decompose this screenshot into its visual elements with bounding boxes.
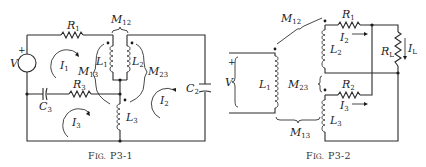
inductor-l2 <box>322 30 325 68</box>
label-m13: M13 <box>289 126 310 140</box>
capacitor-c2 <box>199 84 211 92</box>
circuit-diagrams: R1 M12 V + I1 L1 L2 M13 M23 R3 C3 C2 I2 … <box>0 0 426 167</box>
label-i1: I1 <box>59 59 69 73</box>
label-m12: M12 <box>280 12 301 26</box>
resistor-r3 <box>69 91 91 97</box>
resistor-r1 <box>338 22 360 28</box>
polarity-dot-l3 <box>324 89 327 92</box>
label-r3: R3 <box>72 78 86 92</box>
label-m23: M23 <box>147 65 168 79</box>
l3-wires <box>325 73 398 141</box>
label-l3: L3 <box>125 111 138 125</box>
label-i3: I3 <box>339 99 349 113</box>
polarity-dot-l2 <box>131 42 134 45</box>
inductor-l1 <box>110 46 113 72</box>
caption-fig-p3-2: FIG.P3-2 <box>306 150 351 161</box>
figure-p3-2: V + L1 M12 L2 R1 I2 RL IL M23 R2 <box>225 8 417 161</box>
label-m12: M12 <box>110 13 131 27</box>
voltage-source-v <box>18 54 36 72</box>
label-l1: L1 <box>258 78 271 92</box>
label-i2: I2 <box>339 31 349 45</box>
inductor-l3 <box>322 100 325 132</box>
label-l2: L2 <box>131 55 144 69</box>
l1-wire <box>113 35 127 80</box>
label-m13: M13 <box>77 65 98 79</box>
label-il: IL <box>407 42 417 56</box>
label-l3: L3 <box>329 114 342 128</box>
left-wire <box>27 35 205 141</box>
resistor-r2 <box>338 92 360 98</box>
polarity-dot-l3 <box>124 99 127 102</box>
junction <box>118 78 121 81</box>
primary-wires <box>229 53 275 113</box>
polarity-dot-l1 <box>274 48 277 51</box>
inductor-l1 <box>275 56 278 108</box>
brace-m23 <box>318 76 322 92</box>
polarity-dot-l2 <box>324 20 327 23</box>
label-l1: L1 <box>95 55 108 69</box>
label-r2: R2 <box>341 78 355 92</box>
label-plus: + <box>18 45 26 55</box>
arrowhead <box>364 102 368 106</box>
caption-fig-p3-1: FIG.P3-1 <box>88 150 133 161</box>
return-wire <box>360 25 372 95</box>
label-l2: L2 <box>329 43 342 57</box>
label-v: V <box>225 76 234 89</box>
label-r1: R1 <box>341 8 355 22</box>
arrowhead <box>172 88 176 92</box>
label-c2: C2 <box>186 82 199 96</box>
junction <box>118 139 121 142</box>
arrowhead <box>403 56 407 60</box>
capacitor-c3 <box>43 88 47 100</box>
brace-m12 <box>112 27 128 33</box>
brace-m23 <box>130 44 147 102</box>
resistor-rl <box>395 32 401 66</box>
label-r1: R1 <box>66 19 80 33</box>
polarity-dot-l1 <box>107 42 110 45</box>
arrowhead <box>364 32 368 36</box>
label-c3: C3 <box>39 100 52 114</box>
inductor-l3 <box>117 104 120 130</box>
label-rl: RL <box>380 45 394 59</box>
label-m23: M23 <box>287 78 308 92</box>
label-plus: + <box>228 57 236 67</box>
label-i3: I3 <box>71 116 81 130</box>
figure-p3-1: R1 M12 V + I1 L1 L2 M13 M23 R3 C3 C2 I2 … <box>10 13 211 161</box>
inductor-l2 <box>127 46 130 72</box>
label-v: V <box>10 57 19 70</box>
label-i2: I2 <box>159 94 169 108</box>
brace-m13 <box>276 117 320 123</box>
